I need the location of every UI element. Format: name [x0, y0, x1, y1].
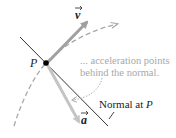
svg-text:v: v	[75, 8, 81, 22]
acceleration-vector	[47, 64, 79, 122]
normal-label: Normal at P	[99, 98, 153, 110]
acceleration-label: a	[81, 111, 88, 127]
annotation-line-1: ... acceleration points	[80, 55, 170, 66]
point-label: P	[29, 56, 38, 70]
normal-label-leader	[109, 112, 114, 119]
annotation-arrow	[73, 78, 102, 100]
motion-diagram: P v a ... acceleration points behind the…	[0, 0, 176, 138]
velocity-label: v	[75, 6, 82, 22]
point-p-marker	[43, 60, 49, 66]
annotation-line-2: behind the normal.	[80, 67, 159, 78]
